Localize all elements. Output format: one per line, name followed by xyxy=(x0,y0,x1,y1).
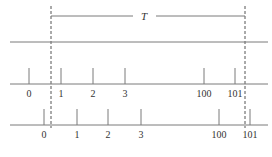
tick-label: 0 xyxy=(42,129,47,140)
tick-label: 3 xyxy=(139,129,144,140)
tick-label: 1 xyxy=(75,129,80,140)
lower-timeline: 0123100101 xyxy=(10,109,268,140)
tick-label: 1 xyxy=(59,88,64,99)
tick-label: 100 xyxy=(212,129,227,140)
tick-label: 3 xyxy=(123,88,128,99)
tick-label: 0 xyxy=(27,88,32,99)
tick-label: 101 xyxy=(243,129,258,140)
tick-label: 2 xyxy=(91,88,96,99)
period-label: T xyxy=(141,10,148,22)
timing-diagram: T 01231001010123100101 xyxy=(0,0,272,157)
tick-label: 101 xyxy=(228,88,243,99)
tick-label: 2 xyxy=(106,129,111,140)
tick-label: 100 xyxy=(197,88,212,99)
upper-timeline: 0123100101 xyxy=(10,68,268,99)
